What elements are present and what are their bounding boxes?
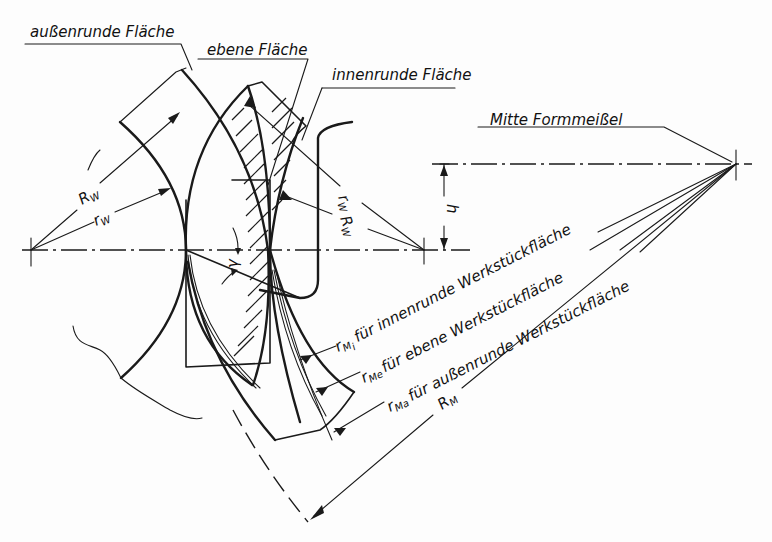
R-M-dimline [314, 415, 433, 516]
r-Ma-leader [334, 402, 384, 432]
svg-text:ebene Fläche: ebene Fläche [207, 41, 307, 59]
gamma-arrowhead-upper [235, 248, 241, 255]
r-W-left-leader-b [115, 191, 165, 212]
R-W-right-leader-a [368, 229, 424, 250]
tool-concave-edge [182, 70, 269, 385]
R-W-left-label: RW [75, 182, 103, 209]
formmeissel-drawing: γ RW rW rW RW h RM außenrunde Fläche [0, 0, 772, 542]
r-W-right-label: rW [333, 192, 357, 215]
r-Ma-arrowhead [334, 428, 346, 436]
svg-text:Mitte Formmeißel: Mitte Formmeißel [490, 111, 623, 129]
r-W-left-label: rW [90, 206, 114, 230]
tool-profile-line-b [274, 270, 326, 416]
break-line-lower-left [73, 326, 202, 419]
rake-face-line [186, 250, 300, 298]
flat-workpiece-outline [186, 180, 270, 367]
R-W-left-leader-a [31, 210, 77, 250]
gamma-label: γ [224, 258, 242, 268]
h-arrowhead-bottom [440, 238, 448, 249]
h-label: h [443, 204, 461, 214]
break-line-upper-left [88, 150, 100, 170]
r-W-left-leader-a [31, 222, 94, 250]
R-M-hidden-arc [233, 410, 308, 522]
diagram-canvas: γ RW rW rW RW h RM außenrunde Fläche [0, 0, 772, 542]
callout-tool-center: Mitte Formmeißel [478, 111, 732, 162]
R-W-right-label: RW [335, 213, 360, 240]
R-M-arrowhead [310, 505, 324, 520]
gamma-arrow-upper [233, 228, 238, 248]
svg-text:innenrunde Fläche: innenrunde Fläche [332, 66, 472, 84]
r-W-right-leader-a [362, 203, 424, 250]
callout-outer-round-surface: außenrunde Fläche [25, 23, 192, 70]
tool-edge-flat [248, 86, 270, 250]
r-W-left-arrowhead [158, 188, 171, 196]
svg-text:außenrunde Fläche: außenrunde Fläche [30, 23, 175, 41]
h-arrowhead-top [440, 165, 448, 176]
R-W-right-leader-b [283, 195, 332, 214]
outer-workpiece-edge-top [120, 68, 186, 122]
inner-arc-upper [186, 86, 248, 250]
R-W-left-leader-b [100, 116, 177, 183]
